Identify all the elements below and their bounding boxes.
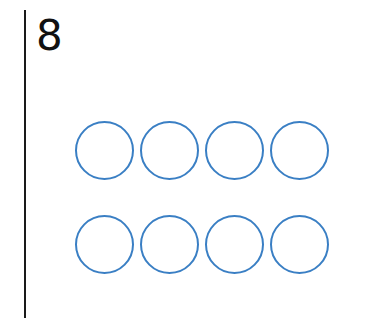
vertical-divider-line (24, 10, 26, 318)
circle-grid (75, 121, 329, 274)
circle-5 (75, 215, 134, 274)
circle-2 (140, 121, 199, 180)
circle-3 (205, 121, 264, 180)
circle-6 (140, 215, 199, 274)
circle-4 (270, 121, 329, 180)
circle-8 (270, 215, 329, 274)
circle-1 (75, 121, 134, 180)
circle-7 (205, 215, 264, 274)
number-label: 8 (36, 14, 63, 58)
